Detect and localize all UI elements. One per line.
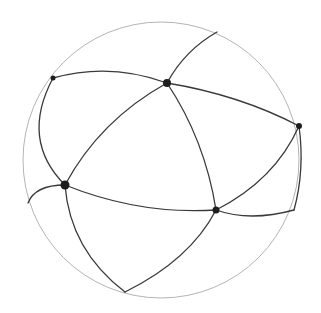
graph-edge <box>28 185 65 203</box>
graph-node <box>163 79 171 87</box>
graph-edge <box>167 32 217 83</box>
graph-edge <box>39 78 65 185</box>
graph-edge <box>167 83 216 210</box>
graph-node <box>61 181 70 190</box>
graph-edge <box>125 210 216 292</box>
graph-node <box>213 207 220 214</box>
graph-edge <box>65 83 167 185</box>
sphere-outline <box>23 22 299 298</box>
graph-node <box>51 76 56 81</box>
edge-group <box>28 32 301 292</box>
spherical-graph-diagram <box>0 0 321 313</box>
graph-edge <box>65 185 216 211</box>
graph-edge <box>216 126 299 210</box>
graph-node <box>296 123 302 129</box>
graph-edge <box>53 71 167 83</box>
graph-edge <box>216 210 294 216</box>
